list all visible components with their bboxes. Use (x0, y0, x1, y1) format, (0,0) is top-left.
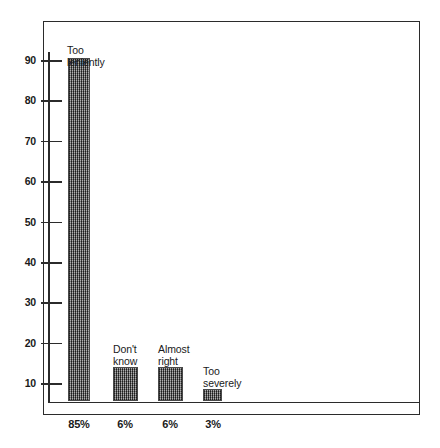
bar-label-dont-know: Don't know (113, 344, 137, 367)
bar-label-too-leniently: Too leniently (67, 45, 105, 68)
y-axis-tick-label-60: 60 (10, 176, 36, 187)
y-axis-line (48, 52, 50, 403)
bar-label-almost-right-line2: right (158, 356, 190, 368)
bar-label-almost-right: Almost right (158, 344, 190, 367)
y-axis-tick-50 (41, 222, 62, 224)
x-axis-line (48, 402, 420, 404)
y-axis-tick-label-30: 30 (10, 297, 36, 308)
bar-label-too-severely: Too severely (203, 366, 241, 389)
plot-area: 90 80 70 60 50 40 30 20 10 Too leniently… (0, 0, 440, 448)
y-axis-tick-label-80: 80 (10, 95, 36, 106)
y-axis-tick-80 (41, 100, 62, 102)
bar-label-dont-know-line2: know (113, 356, 137, 368)
bar-dont-know (113, 367, 138, 401)
y-axis-tick-label-40: 40 (10, 257, 36, 268)
bar-label-dont-know-line1: Don't (113, 344, 137, 356)
y-axis-tick-20 (41, 343, 62, 345)
y-axis-tick-40 (41, 262, 62, 264)
y-axis-tick-10 (41, 383, 62, 385)
bar-label-almost-right-line1: Almost (158, 344, 190, 356)
y-axis-tick-label-10: 10 (10, 378, 36, 389)
bar-label-too-leniently-line1: Too (67, 45, 105, 57)
y-axis-tick-label-20: 20 (10, 338, 36, 349)
y-axis-tick-90 (41, 60, 62, 62)
bar-too-severely (203, 389, 222, 401)
y-axis-tick-30 (41, 302, 62, 304)
bar-chart-figure: 90 80 70 60 50 40 30 20 10 Too leniently… (0, 0, 440, 448)
value-label-too-severely: 3% (183, 419, 243, 430)
bar-almost-right (158, 367, 183, 401)
bar-too-leniently (68, 58, 90, 401)
y-axis-tick-label-90: 90 (10, 55, 36, 66)
bar-label-too-severely-line1: Too (203, 366, 241, 378)
bar-label-too-severely-line2: severely (203, 378, 241, 390)
y-axis-tick-60 (41, 181, 62, 183)
bar-label-too-leniently-line2: leniently (67, 57, 105, 69)
y-axis-tick-70 (41, 141, 62, 143)
y-axis-tick-label-50: 50 (10, 217, 36, 228)
y-axis-tick-label-70: 70 (10, 136, 36, 147)
